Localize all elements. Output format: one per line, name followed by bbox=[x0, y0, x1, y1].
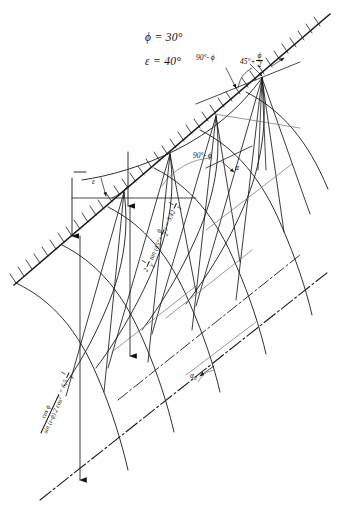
radial-shear-lines bbox=[66, 78, 310, 396]
angle-label-epsilon: ε bbox=[92, 178, 95, 187]
angle-label-alpha-zero: α0 bbox=[190, 372, 197, 381]
angle-label-mid-right: α bbox=[235, 164, 239, 173]
given-friction-angle: ϕ = 30° bbox=[145, 31, 183, 44]
angle-label-mid-left: 90°- ϕ bbox=[193, 152, 212, 161]
epsilon-angle-arc bbox=[112, 186, 128, 198]
lower-dash-dot-boundary bbox=[40, 272, 328, 500]
top-angle-pointer-left bbox=[226, 68, 236, 88]
diagram-canvas bbox=[0, 0, 338, 515]
alpha-zero-subscript: 0 bbox=[194, 375, 197, 381]
angle-label-top-right: 45°+ϕ2 bbox=[240, 52, 263, 69]
angle-top-right-prefix: 45°+ bbox=[240, 57, 256, 66]
diagram-sheet: ϕ = 30° ε = 40° 90°- ϕ 45°+ϕ2 90°- ϕ α ε… bbox=[0, 0, 338, 515]
mid-dash-dot-line bbox=[118, 255, 300, 400]
formula-lower-equals: = 6,5 bbox=[57, 378, 69, 394]
angle-top-right-den: 2 bbox=[256, 61, 264, 69]
angle-label-top-left: 90°- ϕ bbox=[196, 54, 215, 63]
formula-upper-equals: = 3,42 bbox=[163, 209, 177, 228]
angle-top-right-fraction: ϕ2 bbox=[256, 52, 264, 69]
mid-angle-pointer bbox=[222, 162, 234, 172]
given-slope-angle: ε = 40° bbox=[145, 55, 181, 68]
epsilon-pointer bbox=[101, 178, 106, 196]
